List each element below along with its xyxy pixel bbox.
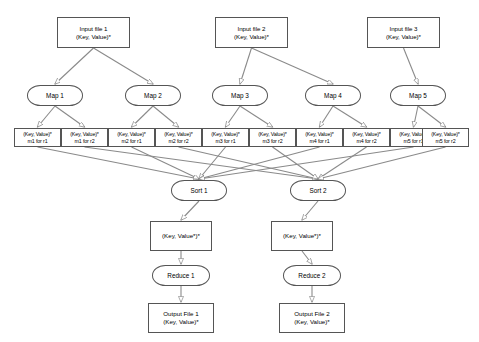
partition-6-kv: (Key, Value)*: [258, 131, 286, 138]
partition-1-label: m1 for r1: [28, 138, 48, 145]
edge-m1-to-p1: [38, 106, 56, 127]
node-map-1[interactable]: Map 1: [27, 85, 83, 106]
node-map-2[interactable]: Map 2: [125, 85, 181, 106]
partition-5-kv: (Key, Value)*: [211, 131, 239, 138]
output-file-1-label: Output File 1: [163, 310, 198, 318]
node-reduce-2[interactable]: Reduce 2: [283, 265, 341, 286]
input-file-3-label: Input file 3: [390, 25, 418, 33]
partition-2-kv: (Key, Value)*: [70, 131, 98, 138]
node-reduce-1[interactable]: Reduce 1: [152, 265, 210, 286]
sort-1-label: Sort 1: [190, 187, 207, 195]
edge-p8-to-s2: [318, 147, 367, 179]
reduce-1-label: Reduce 1: [167, 272, 194, 280]
node-sort-2[interactable]: Sort 2: [290, 180, 346, 201]
node-map-4[interactable]: Map 4: [305, 85, 361, 106]
map-1-label: Map 1: [46, 92, 64, 100]
sorted-kv-2-label: (Key, Value*)*: [283, 232, 321, 240]
node-partition-m1-r1[interactable]: (Key, Value)* m1 for r1: [14, 128, 61, 147]
node-partition-m5-r2[interactable]: (Key, Value)* m5 for r2: [422, 128, 469, 147]
sort-2-label: Sort 2: [309, 187, 326, 195]
partition-5-label: m3 for r1: [216, 138, 236, 145]
output-file-2-sublabel: (Key, Value)*: [294, 318, 330, 326]
partition-10-kv: (Key, Value)*: [431, 131, 459, 138]
input-file-3-sublabel: (Key, Value)*: [386, 33, 421, 41]
partition-1-kv: (Key, Value)*: [23, 131, 51, 138]
input-file-2-label: Input file 2: [238, 25, 266, 33]
partition-2-label: m1 for r2: [75, 138, 95, 145]
edge-m3-to-p6: [240, 106, 273, 127]
node-input-file-3[interactable]: Input file 3 (Key, Value)*: [367, 17, 440, 48]
partition-6-label: m3 for r2: [263, 138, 283, 145]
input-file-2-sublabel: (Key, Value)*: [234, 33, 269, 41]
partition-9-label: m5 for r1: [404, 138, 424, 145]
edge-m4-to-p8: [333, 106, 367, 127]
partition-10-label: m5 for r2: [436, 138, 456, 145]
node-partition-m3-r2[interactable]: (Key, Value)* m3 for r2: [249, 128, 296, 147]
output-file-2-label: Output File 2: [294, 310, 329, 318]
node-output-file-2[interactable]: Output File 2 (Key, Value)*: [279, 303, 345, 333]
node-output-file-1[interactable]: Output File 1 (Key, Value)*: [148, 303, 214, 333]
edge-in2-to-m3: [240, 48, 252, 84]
edge-in2-to-m4: [252, 48, 334, 84]
edge-m4-to-p7: [320, 106, 334, 127]
edge-s1-to-k1: [181, 201, 199, 220]
node-map-5[interactable]: Map 5: [390, 85, 446, 106]
node-sorted-kv-1[interactable]: (Key, Value*)*: [150, 221, 212, 251]
node-partition-m4-r1[interactable]: (Key, Value)* m4 for r1: [296, 128, 343, 147]
edge-p7-to-s1: [199, 147, 320, 179]
node-sort-1[interactable]: Sort 1: [171, 180, 227, 201]
edge-p3-to-s1: [132, 147, 200, 179]
edge-s2-to-k2: [302, 201, 318, 220]
partition-7-kv: (Key, Value)*: [305, 131, 333, 138]
output-file-1-sublabel: (Key, Value)*: [163, 318, 199, 326]
sorted-kv-1-label: (Key, Value*)*: [162, 232, 200, 240]
diagram-canvas: Input file 1 (Key, Value)* Input file 2 …: [0, 0, 479, 342]
node-input-file-1[interactable]: Input file 1 (Key, Value)*: [57, 17, 130, 48]
partition-4-label: m2 for r2: [169, 138, 189, 145]
input-file-1-label: Input file 1: [80, 25, 108, 33]
edge-in1-to-m1: [55, 48, 94, 84]
edge-in3-to-m5: [404, 48, 419, 84]
edge-k2-to-r2: [302, 251, 312, 264]
map-3-label: Map 3: [231, 92, 249, 100]
map-2-label: Map 2: [144, 92, 162, 100]
edge-m3-to-p5: [226, 106, 241, 127]
edge-m1-to-p2: [55, 106, 85, 127]
edge-m5-to-p10: [418, 106, 446, 127]
edge-layer: [0, 0, 479, 342]
partition-8-label: m4 for r2: [357, 138, 377, 145]
partition-3-label: m2 for r1: [122, 138, 142, 145]
node-partition-m2-r1[interactable]: (Key, Value)* m2 for r1: [108, 128, 155, 147]
node-sorted-kv-2[interactable]: (Key, Value*)*: [271, 221, 333, 251]
node-partition-m1-r2[interactable]: (Key, Value)* m1 for r2: [61, 128, 108, 147]
partition-3-kv: (Key, Value)*: [117, 131, 145, 138]
partition-4-kv: (Key, Value)*: [164, 131, 192, 138]
reduce-2-label: Reduce 2: [298, 272, 325, 280]
node-partition-m3-r1[interactable]: (Key, Value)* m3 for r1: [202, 128, 249, 147]
edge-m5-to-p9: [414, 106, 419, 127]
edge-in1-to-m2: [94, 48, 154, 84]
edge-m2-to-p3: [132, 106, 154, 127]
partition-7-label: m4 for r1: [310, 138, 330, 145]
node-map-3[interactable]: Map 3: [212, 85, 268, 106]
node-partition-m4-r2[interactable]: (Key, Value)* m4 for r2: [343, 128, 390, 147]
map-4-label: Map 4: [324, 92, 342, 100]
node-input-file-2[interactable]: Input file 2 (Key, Value)*: [215, 17, 288, 48]
partition-8-kv: (Key, Value)*: [352, 131, 380, 138]
node-partition-m2-r2[interactable]: (Key, Value)* m2 for r2: [155, 128, 202, 147]
map-5-label: Map 5: [409, 92, 427, 100]
edge-m2-to-p4: [153, 106, 179, 127]
input-file-1-sublabel: (Key, Value)*: [76, 33, 111, 41]
